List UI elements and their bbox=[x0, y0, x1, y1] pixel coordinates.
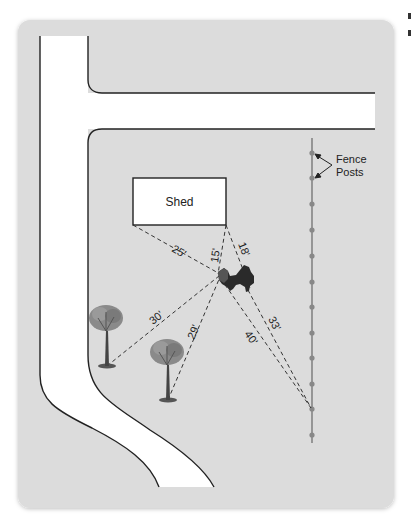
road-horizontal bbox=[88, 93, 375, 129]
fence-posts-label-line2: Posts bbox=[336, 166, 364, 178]
label-15ft: 15' bbox=[208, 247, 222, 263]
fence-posts-label-line1: Fence bbox=[336, 153, 367, 165]
dog-location-diagram: Shed Fence Posts bbox=[0, 0, 414, 529]
edge-mark-2 bbox=[408, 30, 411, 36]
shed-label: Shed bbox=[165, 195, 193, 209]
edge-mark-1 bbox=[408, 13, 411, 19]
